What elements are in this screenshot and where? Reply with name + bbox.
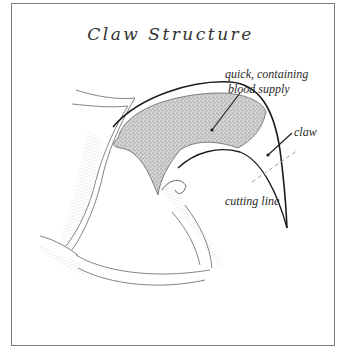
claw-inner [178, 150, 287, 228]
cutting-line-label: cutting line [225, 193, 279, 209]
claw-illustration [0, 0, 341, 350]
quick-dot [210, 128, 213, 131]
claw-label: claw [294, 124, 317, 140]
quick-label-line1: quick, containing [225, 66, 308, 82]
quick-label-line2: blood supply [228, 81, 290, 97]
claw-dot [266, 153, 269, 156]
quick-region [114, 93, 266, 195]
